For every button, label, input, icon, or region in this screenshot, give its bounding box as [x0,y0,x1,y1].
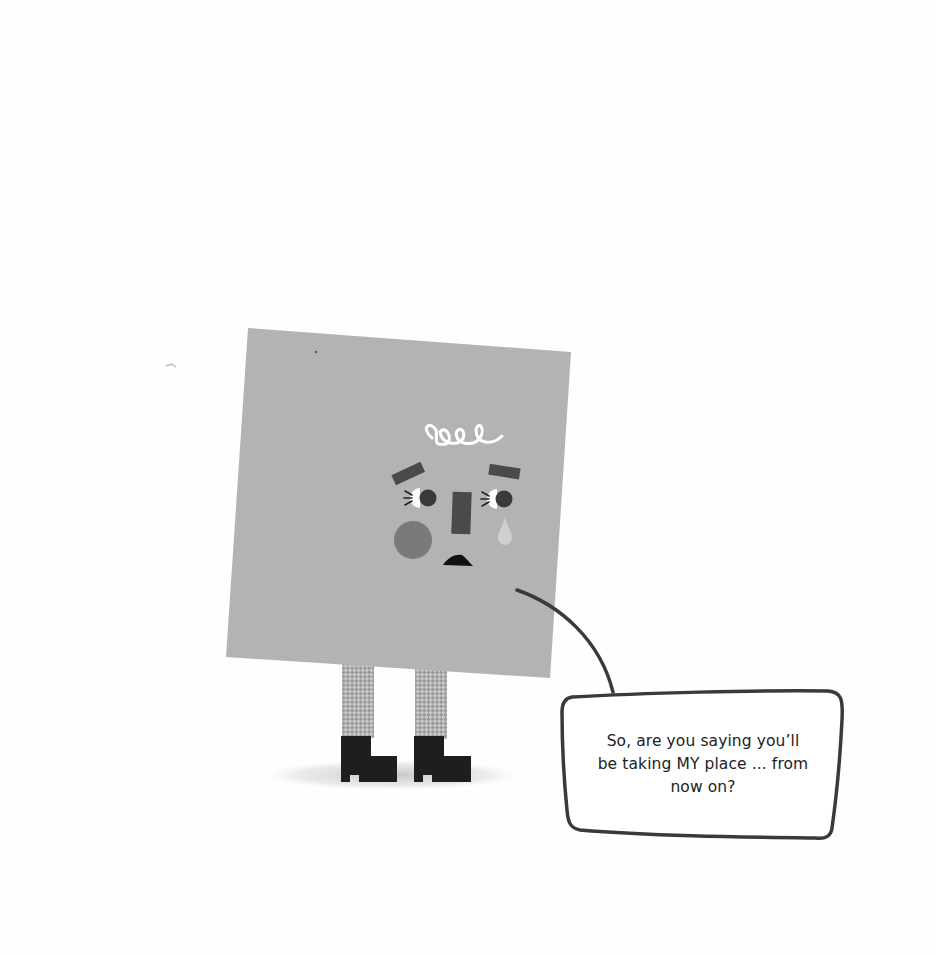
square-character [226,328,571,678]
storybook-page: So, are you saying you’ll be taking MY p… [0,0,935,955]
right-boot-icon [414,736,471,782]
right-leg [415,665,447,739]
left-boot-icon [341,736,397,782]
cheek [394,521,432,559]
illustration [0,0,935,955]
speech-line-3: now on? [572,776,834,799]
speech-line-2: be taking MY place ... from [572,753,834,776]
left-leg [342,660,374,738]
nose [451,492,471,535]
legs [342,660,447,739]
stray-mark [166,364,176,367]
speech-bubble-text: So, are you saying you’ll be taking MY p… [572,730,834,799]
speech-line-1: So, are you saying you’ll [572,730,834,753]
